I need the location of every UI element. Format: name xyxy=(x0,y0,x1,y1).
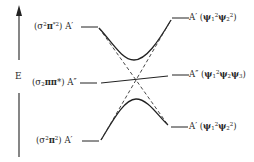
right-top-symmetry: A′ xyxy=(189,12,197,22)
left-bottom-symmetry: A′ xyxy=(64,135,72,145)
left-state-middle-label: (σ2ππ*) A″ xyxy=(32,78,77,88)
right-bottom-symmetry: A′ xyxy=(189,121,197,131)
dashed-correlation-top-to-bottom xyxy=(99,28,168,125)
left-top-symmetry: A′ xyxy=(65,21,73,31)
lower-correlation-curve xyxy=(101,99,168,140)
right-state-bottom-label: A′ (ψ12ψ22) xyxy=(189,122,236,132)
right-middle-symmetry: A″ xyxy=(189,69,198,79)
left-state-bottom-label: (σ2π2) A′ xyxy=(36,136,72,145)
left-middle-symmetry: A″ xyxy=(67,77,76,87)
energy-axis-label: E xyxy=(15,72,22,81)
energy-axis-arrowhead xyxy=(16,5,22,16)
right-state-top-label: A′ (ψ12ψ22) xyxy=(189,13,236,23)
upper-correlation-curve xyxy=(99,20,171,60)
left-state-top-label: (σ2π*2) A′ xyxy=(34,22,73,31)
right-state-middle-label: A″ (ψ12ψ2ψ3) xyxy=(189,70,246,80)
